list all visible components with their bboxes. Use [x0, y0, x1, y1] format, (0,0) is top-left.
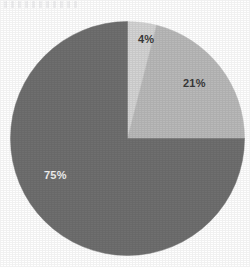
pie-chart-figure: 4% 21% 75%: [0, 0, 250, 267]
pie-slice-group: [11, 22, 245, 256]
pie-chart-canvas: [0, 0, 250, 267]
